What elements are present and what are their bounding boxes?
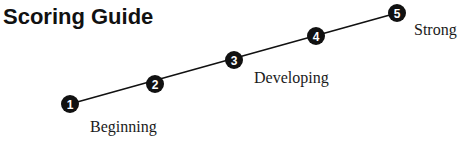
step-3-number: 3 <box>231 54 238 68</box>
step-5-marker: 5 <box>388 4 406 22</box>
step-4-marker: 4 <box>307 27 325 45</box>
step-3-marker: 3 <box>225 51 243 69</box>
label-strong: Strong <box>414 21 457 39</box>
step-2-number: 2 <box>152 78 159 92</box>
step-2-marker: 2 <box>146 75 164 93</box>
step-4-number: 4 <box>313 30 320 44</box>
label-beginning: Beginning <box>90 118 157 136</box>
label-developing: Developing <box>254 69 329 87</box>
step-1-marker: 1 <box>61 95 79 113</box>
scoring-scale-line: 1 2 3 4 5 <box>0 0 463 141</box>
step-1-number: 1 <box>67 98 74 112</box>
step-5-number: 5 <box>394 7 401 21</box>
